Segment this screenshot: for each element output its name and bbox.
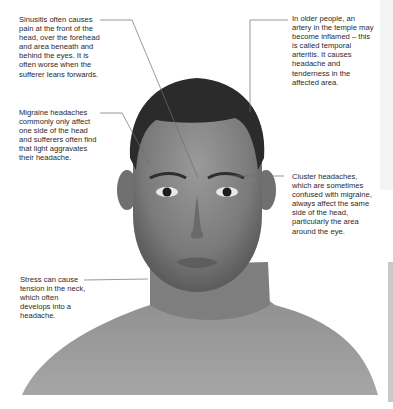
annotation-stress: Stress can cause tension in the neck, wh… xyxy=(20,275,88,320)
annotation-temporal-arteritis: In older people, an artery in the temple… xyxy=(292,14,374,87)
diagram-page: Sinusitis often causes pain at the front… xyxy=(0,0,393,409)
leader-line-temporal xyxy=(250,20,288,112)
annotation-migraine: Migraine headaches commonly only affect … xyxy=(19,108,101,163)
leader-line-stress xyxy=(84,279,148,280)
annotation-cluster: Cluster headaches, which are sometimes c… xyxy=(292,172,378,236)
annotation-sinusitis: Sinusitis often causes pain at the front… xyxy=(19,15,101,79)
